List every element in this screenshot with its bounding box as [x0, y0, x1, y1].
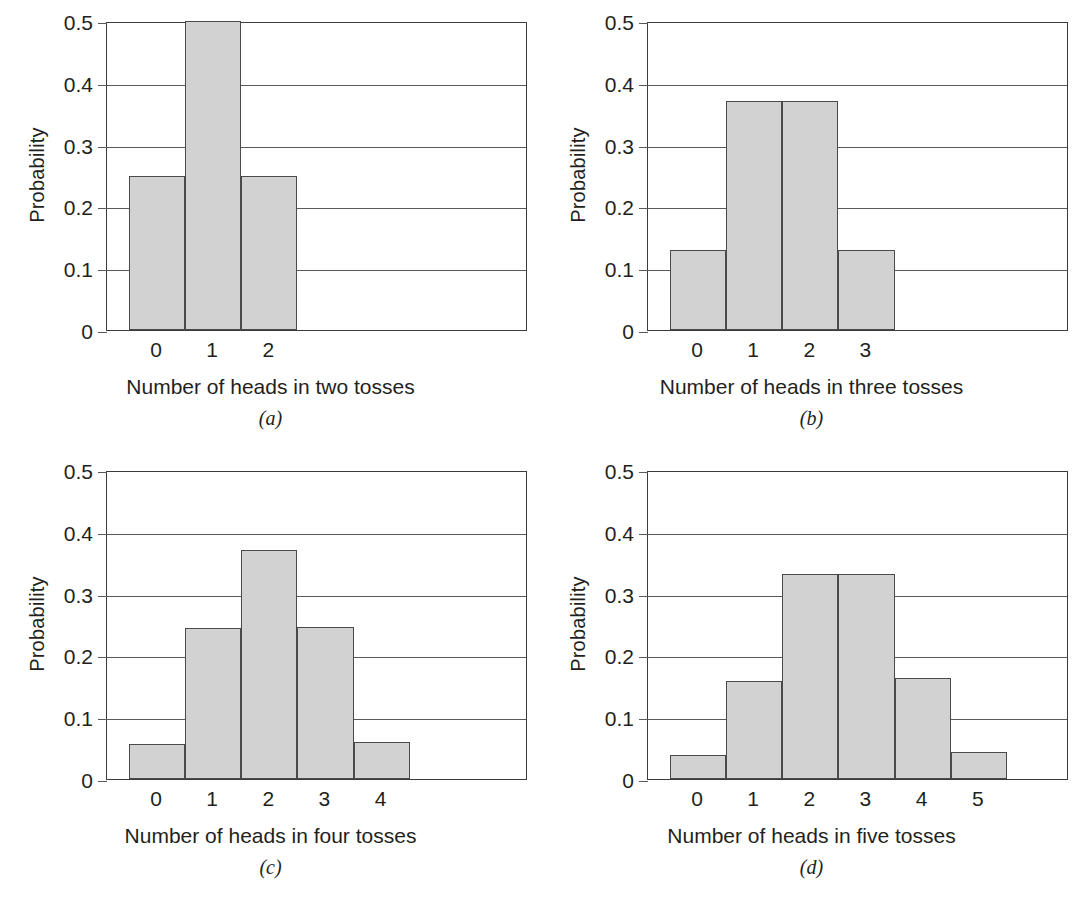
chart-panel-a: Probability00.10.20.30.40.5012Number of … [0, 0, 541, 449]
y-tick-mark [98, 332, 107, 333]
y-tick-mark [98, 23, 107, 24]
bar [726, 101, 782, 330]
y-tick-label: 0.5 [572, 12, 634, 33]
bar [838, 574, 894, 779]
y-tick-mark [639, 719, 648, 720]
x-tick-label: 2 [781, 788, 837, 809]
y-tick-label: 0.3 [31, 136, 93, 157]
bar [726, 681, 782, 779]
plot-area: 00.10.20.30.40.5 [106, 22, 527, 331]
y-axis-title: Probability [22, 469, 52, 779]
bar [185, 628, 241, 779]
y-tick-mark [98, 147, 107, 148]
x-tick-label: 0 [669, 339, 725, 360]
panel-caption: (a) [0, 407, 541, 429]
x-axis-title: Number of heads in two tosses [0, 375, 541, 399]
bar [782, 101, 838, 330]
bar [670, 250, 726, 330]
x-tick-label: 2 [240, 788, 296, 809]
y-axis-title: Probability [563, 469, 593, 779]
x-axis-title: Number of heads in five tosses [541, 824, 1082, 848]
histogram-figure: Probability00.10.20.30.40.5012Number of … [0, 0, 1082, 898]
gridline [648, 147, 1067, 148]
x-tick-label: 3 [837, 788, 893, 809]
x-tick-label: 2 [240, 339, 296, 360]
gridline [648, 534, 1067, 535]
chart-panel-c: Probability00.10.20.30.40.501234Number o… [0, 449, 541, 898]
gridline [648, 85, 1067, 86]
y-tick-label: 0.4 [31, 523, 93, 544]
x-axis-title: Number of heads in four tosses [0, 824, 541, 848]
y-tick-label: 0 [31, 321, 93, 342]
x-tick-label: 3 [296, 788, 352, 809]
x-tick-label: 5 [950, 788, 1006, 809]
plot-area: 00.10.20.30.40.5 [647, 471, 1068, 780]
y-axis-title: Probability [22, 20, 52, 330]
y-axis-title: Probability [563, 20, 593, 330]
chart-panel-d: Probability00.10.20.30.40.5012345Number … [541, 449, 1082, 898]
y-tick-label: 0.1 [572, 259, 634, 280]
bar [185, 21, 241, 330]
x-tick-label: 0 [128, 339, 184, 360]
y-tick-mark [98, 208, 107, 209]
y-tick-label: 0.1 [31, 259, 93, 280]
x-tick-label: 0 [669, 788, 725, 809]
y-tick-mark [98, 657, 107, 658]
bar [782, 574, 838, 779]
y-tick-mark [639, 85, 648, 86]
y-tick-label: 0.4 [572, 523, 634, 544]
y-tick-label: 0.2 [572, 197, 634, 218]
y-tick-label: 0.4 [572, 74, 634, 95]
bar [241, 176, 297, 331]
y-tick-label: 0 [31, 770, 93, 791]
y-tick-label: 0.3 [572, 136, 634, 157]
y-tick-mark [639, 332, 648, 333]
y-tick-mark [639, 270, 648, 271]
y-tick-label: 0.2 [572, 646, 634, 667]
y-tick-mark [639, 472, 648, 473]
y-tick-mark [639, 23, 648, 24]
bar [354, 742, 410, 779]
y-tick-mark [639, 208, 648, 209]
y-tick-label: 0.5 [31, 461, 93, 482]
y-tick-mark [639, 596, 648, 597]
x-tick-label: 1 [184, 788, 240, 809]
x-tick-label: 4 [353, 788, 409, 809]
x-tick-label: 1 [184, 339, 240, 360]
y-tick-label: 0 [572, 770, 634, 791]
gridline [107, 85, 526, 86]
y-tick-mark [639, 781, 648, 782]
y-tick-label: 0.3 [572, 585, 634, 606]
bar [241, 550, 297, 779]
y-tick-label: 0.4 [31, 74, 93, 95]
gridline [107, 596, 526, 597]
bar [297, 627, 353, 779]
y-tick-label: 0.3 [31, 585, 93, 606]
x-tick-label: 2 [781, 339, 837, 360]
y-tick-label: 0.5 [572, 461, 634, 482]
y-tick-mark [98, 596, 107, 597]
y-tick-mark [98, 534, 107, 535]
panel-caption: (b) [541, 407, 1082, 429]
x-tick-label: 0 [128, 788, 184, 809]
y-tick-mark [639, 657, 648, 658]
chart-panel-b: Probability00.10.20.30.40.50123Number of… [541, 0, 1082, 449]
bar [838, 250, 894, 330]
y-tick-mark [98, 781, 107, 782]
panel-caption: (c) [0, 856, 541, 878]
gridline [107, 534, 526, 535]
y-tick-label: 0 [572, 321, 634, 342]
y-tick-mark [639, 147, 648, 148]
bar [129, 744, 185, 779]
x-tick-label: 1 [725, 339, 781, 360]
y-tick-label: 0.5 [31, 12, 93, 33]
bar [895, 678, 951, 779]
x-axis-title: Number of heads in three tosses [541, 375, 1082, 399]
bar [129, 176, 185, 331]
y-tick-label: 0.2 [31, 646, 93, 667]
y-tick-mark [639, 534, 648, 535]
gridline [648, 208, 1067, 209]
y-tick-label: 0.2 [31, 197, 93, 218]
plot-area: 00.10.20.30.40.5 [106, 471, 527, 780]
bar [951, 752, 1007, 779]
